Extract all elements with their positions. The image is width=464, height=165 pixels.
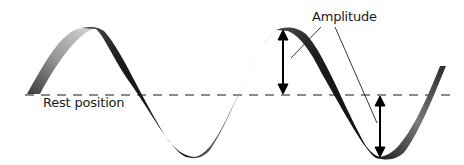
wave-diagram — [0, 0, 464, 165]
amplitude-arrow-trough — [375, 96, 385, 157]
wave-ribbon-rise-2 — [186, 28, 288, 158]
rest-position-label: Rest position — [43, 95, 124, 110]
wave-ribbon-rise-1 — [27, 28, 96, 94]
amplitude-label: Amplitude — [312, 9, 377, 24]
wave-ribbon-rise-3 — [376, 66, 446, 159]
wave-ribbon-fall-1 — [82, 27, 196, 157]
amplitude-leader-line-2 — [335, 27, 377, 123]
wave-ribbon-fall-2 — [276, 27, 386, 158]
amplitude-arrow-peak — [278, 30, 288, 94]
